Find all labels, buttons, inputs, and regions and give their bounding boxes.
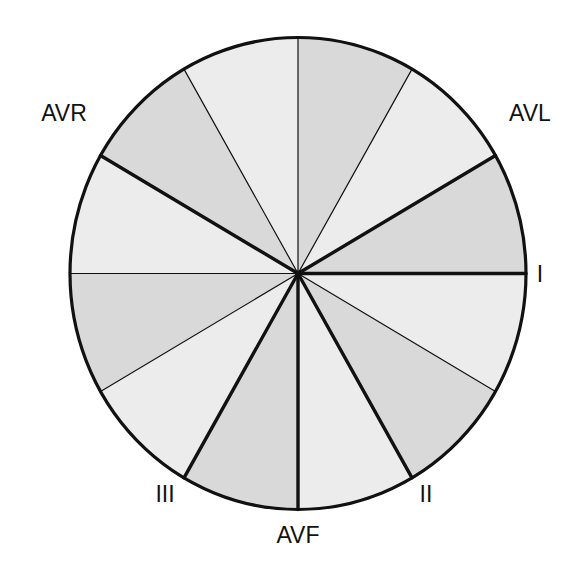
label-ii: II bbox=[420, 481, 433, 507]
label-avf: AVF bbox=[276, 522, 319, 548]
label-i: I bbox=[537, 261, 543, 287]
label-avl: AVL bbox=[509, 100, 551, 126]
center-point bbox=[295, 271, 301, 277]
label-avr: AVR bbox=[41, 100, 87, 126]
label-iii: III bbox=[155, 481, 174, 507]
hexaxial-diagram: AVR AVL I III II AVF bbox=[0, 0, 582, 568]
